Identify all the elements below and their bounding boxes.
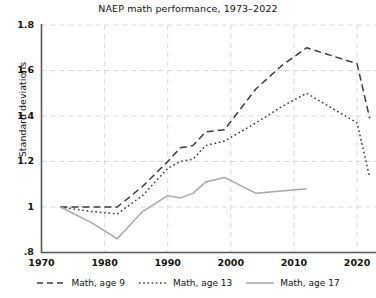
y-tick-label: 1.6 xyxy=(0,64,34,75)
legend-item-math-age-13[interactable]: Math, age 13 xyxy=(138,278,232,288)
y-tick-label: 1.4 xyxy=(0,110,34,121)
y-tick-label: 1 xyxy=(0,201,34,212)
x-tick-label: 2020 xyxy=(332,257,376,268)
series-layer xyxy=(60,48,369,239)
x-tick-label: 2010 xyxy=(269,257,319,268)
dotted-line-icon xyxy=(138,279,168,287)
y-tick-label: 1.2 xyxy=(0,155,34,166)
x-tick-label: 1990 xyxy=(143,257,193,268)
legend-item-math-age-17[interactable]: Math, age 17 xyxy=(245,278,339,288)
series-line xyxy=(60,48,369,207)
gridlines xyxy=(42,25,376,253)
legend: Math, age 9 Math, age 13 Math, age 17 xyxy=(0,278,376,288)
x-tick-label: 1970 xyxy=(17,257,67,268)
legend-label: Math, age 13 xyxy=(173,278,232,288)
solid-line-icon xyxy=(245,279,275,287)
dashed-line-icon xyxy=(36,279,66,287)
x-tick-label: 1980 xyxy=(80,257,130,268)
plot-area xyxy=(0,0,376,298)
y-tick-label: .8 xyxy=(0,246,34,257)
legend-label: Math, age 17 xyxy=(280,278,339,288)
series-line xyxy=(60,93,369,214)
legend-label: Math, age 9 xyxy=(71,278,125,288)
x-tick-label: 2000 xyxy=(206,257,256,268)
legend-item-math-age-9[interactable]: Math, age 9 xyxy=(36,278,125,288)
y-tick-label: 1.8 xyxy=(0,19,34,30)
chart-figure: NAEP math performance, 1973–2022 Standar… xyxy=(0,0,376,298)
series-line xyxy=(60,177,306,238)
